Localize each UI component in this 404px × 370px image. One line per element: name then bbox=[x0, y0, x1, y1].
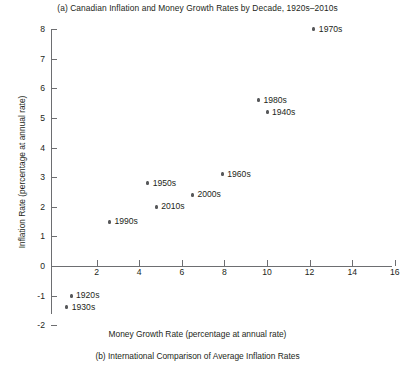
x-tick-mark bbox=[139, 260, 140, 266]
y-tick-mark bbox=[51, 266, 57, 267]
x-tick-label: 16 bbox=[383, 268, 404, 277]
x-tick-mark bbox=[395, 260, 396, 266]
data-point-label-1980s: 1980s bbox=[263, 96, 286, 105]
y-tick-mark bbox=[51, 59, 57, 60]
y-tick-mark bbox=[51, 148, 57, 149]
x-tick-label: 14 bbox=[340, 268, 364, 277]
y-axis-line bbox=[51, 29, 52, 314]
y-tick-label: -1 bbox=[19, 292, 45, 301]
data-point-label-1940s: 1940s bbox=[272, 108, 295, 117]
data-point-label-2000s: 2000s bbox=[197, 190, 220, 199]
x-tick-label: 6 bbox=[170, 268, 194, 277]
y-tick-mark bbox=[51, 296, 57, 297]
x-tick-label: 12 bbox=[298, 268, 322, 277]
data-point-1960s bbox=[221, 172, 224, 176]
data-point-2000s bbox=[191, 193, 194, 197]
data-point-1930s bbox=[65, 305, 68, 309]
x-tick-mark bbox=[182, 260, 183, 266]
x-tick-mark bbox=[352, 260, 353, 266]
y-axis-title: Inflation Rate (percentage at annual rat… bbox=[17, 62, 27, 282]
x-tick-label: 10 bbox=[255, 268, 279, 277]
x-tick-mark bbox=[97, 260, 98, 266]
y-tick-mark bbox=[51, 177, 57, 178]
x-tick-label: 4 bbox=[127, 268, 151, 277]
data-point-2010s bbox=[155, 205, 158, 209]
data-point-label-1920s: 1920s bbox=[76, 291, 99, 300]
x-tick-mark bbox=[310, 260, 311, 266]
y-tick-label: 8 bbox=[19, 25, 45, 34]
data-point-1920s bbox=[70, 294, 73, 298]
y-tick-mark bbox=[51, 236, 57, 237]
x-tick-label: 8 bbox=[212, 268, 236, 277]
x-tick-label: 2 bbox=[85, 268, 109, 277]
data-point-label-1950s: 1950s bbox=[153, 179, 176, 188]
data-point-1970s bbox=[312, 27, 315, 31]
data-point-label-2010s: 2010s bbox=[161, 202, 184, 211]
data-point-1940s bbox=[266, 110, 269, 114]
x-tick-mark bbox=[224, 260, 225, 266]
x-axis-title: Money Growth Rate (percentage at annual … bbox=[0, 329, 395, 339]
data-point-label-1960s: 1960s bbox=[227, 170, 250, 179]
data-point-1990s bbox=[108, 220, 111, 224]
y-tick-mark bbox=[51, 118, 57, 119]
data-point-label-1990s: 1990s bbox=[114, 217, 137, 226]
data-point-1950s bbox=[146, 181, 149, 185]
y-tick-mark bbox=[51, 207, 57, 208]
y-tick-mark bbox=[51, 88, 57, 89]
x-tick-mark bbox=[267, 260, 268, 266]
y-tick-mark bbox=[51, 29, 57, 30]
y-tick-mark bbox=[51, 325, 57, 326]
data-point-1980s bbox=[257, 98, 260, 102]
data-point-label-1930s: 1930s bbox=[72, 303, 95, 312]
data-point-label-1970s: 1970s bbox=[319, 25, 342, 34]
figure-caption-b: (b) International Comparison of Average … bbox=[0, 351, 395, 361]
